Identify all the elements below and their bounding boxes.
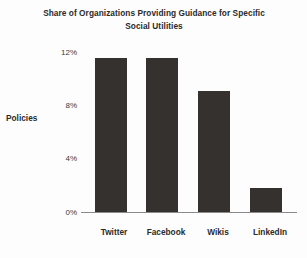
- y-tick-label-3: 12%: [43, 48, 77, 57]
- bar-wikis[interactable]: [198, 91, 230, 212]
- y-tick-label-1: 4%: [43, 154, 77, 163]
- bar-slot-3: [250, 45, 282, 212]
- y-tick-label-2: 8%: [43, 101, 77, 110]
- y-axis-tick-labels: 0% 4% 8% 12%: [39, 0, 77, 258]
- plot-area: [81, 45, 297, 212]
- bar-twitter[interactable]: [95, 58, 127, 212]
- bar-slot-2: [198, 45, 230, 212]
- bar-chart-figure: Share of Organizations Providing Guidanc…: [0, 0, 307, 258]
- bar-linkedin[interactable]: [250, 188, 282, 212]
- x-tick-label-linkedin: LinkedIn: [235, 227, 305, 237]
- bar-slot-1: [146, 45, 178, 212]
- bar-slot-0: [95, 45, 127, 212]
- x-axis-line: [81, 212, 297, 213]
- y-tick-label-0: 0%: [43, 207, 77, 216]
- bar-facebook[interactable]: [146, 58, 178, 212]
